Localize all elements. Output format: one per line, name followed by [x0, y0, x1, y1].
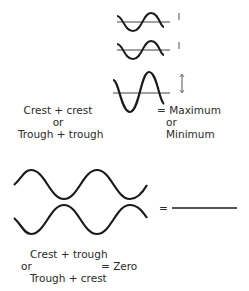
- destructive-or-text: or: [21, 260, 32, 272]
- wave-2: [117, 41, 179, 59]
- crest-trough-text: Crest + trough: [30, 248, 108, 260]
- constructive-result: = Maximum or Minimum: [157, 104, 221, 140]
- zero-result-text: = Zero: [101, 260, 137, 272]
- trough-crest-text: Trough + crest: [30, 272, 107, 284]
- maximum-text: = Maximum: [157, 104, 221, 116]
- minimum-text: Minimum: [157, 128, 221, 140]
- constructive-label: Crest + crest or Trough + trough: [18, 104, 98, 140]
- result-or-text: or: [157, 116, 221, 128]
- wave-1: [117, 13, 179, 31]
- crest-wave: [14, 170, 147, 199]
- destructive-waves: [14, 170, 237, 234]
- destructive-equals: =: [159, 202, 168, 214]
- trough-wave: [14, 205, 147, 234]
- crest-crest-text: Crest + crest: [18, 104, 98, 116]
- trough-trough-text: Trough + trough: [18, 128, 98, 140]
- or-text: or: [18, 116, 98, 128]
